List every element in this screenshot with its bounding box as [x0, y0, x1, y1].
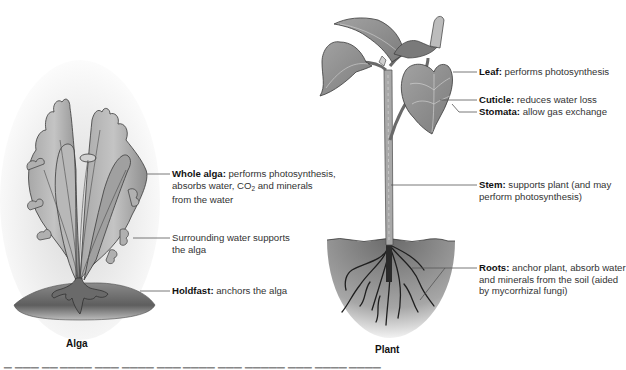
left-leaf — [320, 42, 372, 96]
label-roots: Roots: anchor plant, absorb water and mi… — [479, 262, 626, 297]
label-term: Stem: — [479, 179, 506, 190]
label-leaf: Leaf: performs photosynthesis — [479, 66, 609, 78]
root-crown — [386, 240, 392, 282]
label-text: perform photosynthesis) — [479, 191, 582, 202]
label-text: and minerals from the soil (aided — [479, 274, 618, 285]
label-text: performs photosynthesis, — [229, 168, 336, 179]
label-cuticle: Cuticle: reduces water loss — [479, 94, 597, 106]
label-term: Cuticle: — [479, 94, 514, 105]
label-text: absorbs water, CO — [172, 180, 251, 191]
label-text: the alga — [172, 244, 206, 255]
label-text: and minerals — [255, 180, 313, 191]
label-text: by mycorrhizal fungi) — [479, 285, 568, 296]
label-text: from the water — [172, 194, 233, 205]
label-text: anchor plant, absorb water — [512, 262, 626, 273]
label-text: supports plant (and may — [508, 179, 611, 190]
stem — [384, 70, 393, 245]
label-text: allow gas exchange — [523, 106, 607, 117]
alga-title: Alga — [66, 338, 88, 349]
label-term: Holdfast: — [172, 285, 214, 296]
alga-illustration — [0, 60, 160, 340]
label-whole-alga: Whole alga: performs photosynthesis, abs… — [172, 168, 336, 206]
bud — [430, 16, 444, 48]
label-text: Surrounding water supports — [172, 232, 290, 243]
label-text: performs photosynthesis — [505, 66, 610, 77]
right-leaf — [401, 64, 452, 134]
label-surrounding-water: Surrounding water supports the alga — [172, 232, 290, 255]
label-holdfast: Holdfast: anchors the alga — [172, 285, 287, 297]
label-term: Whole alga: — [172, 168, 226, 179]
label-text: reduces water loss — [517, 94, 597, 105]
label-text: anchors the alga — [216, 285, 287, 296]
label-stem: Stem: supports plant (and may perform ph… — [479, 179, 611, 202]
plant-title: Plant — [375, 344, 399, 355]
label-term: Roots: — [479, 262, 509, 273]
figure-caption-cutoff: ▔ ▔▔▔ ▔▔ ▔▔▔▔ ▔▔▔ ▔▔▔▔ ▔▔▔ ▔▔▔▔ ▔▔▔ ▔▔▔▔… — [0, 364, 623, 370]
plant-illustration — [320, 16, 455, 338]
label-term: Leaf: — [479, 66, 502, 77]
label-stomata: Stomata: allow gas exchange — [479, 106, 607, 118]
label-term: Stomata: — [479, 106, 520, 117]
